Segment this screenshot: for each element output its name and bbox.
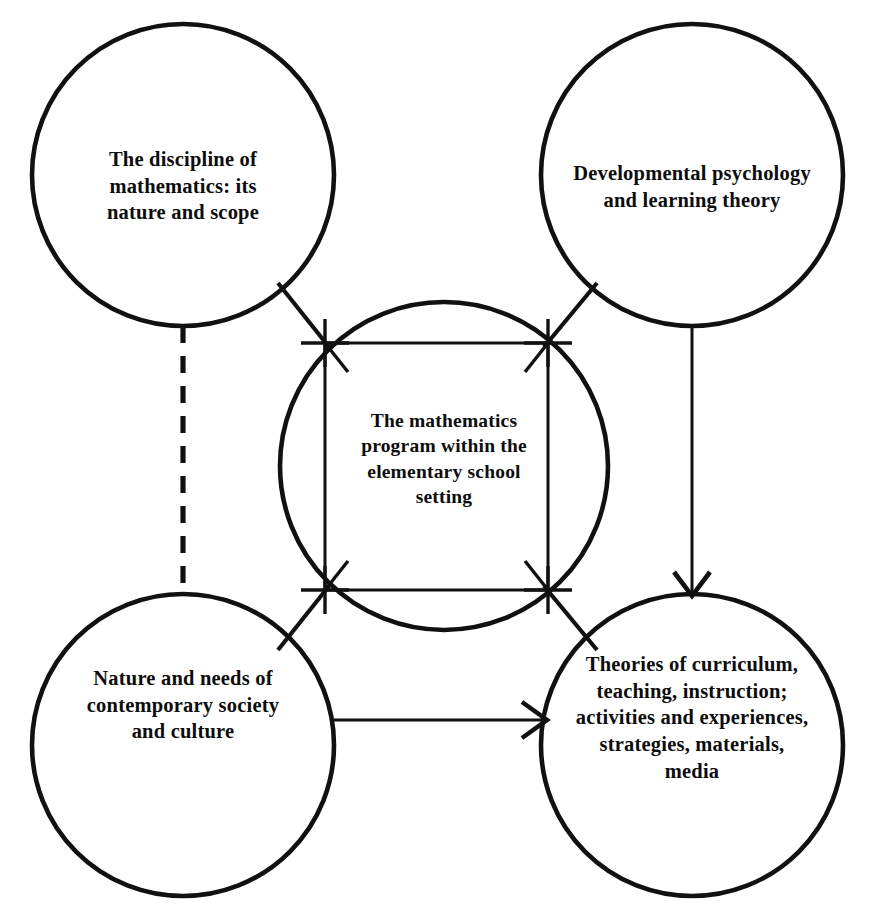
node-square-mathematics-program[interactable] (325, 343, 548, 590)
arrow-barb-top-right-diagonal (525, 343, 548, 372)
arrow-barb-bottom-right-diagonal (525, 561, 548, 590)
arrow-barb-top-left-diagonal (325, 343, 348, 372)
arrow-barb-bottom-left-diagonal (325, 561, 348, 590)
connector-society-to-center-line[interactable] (278, 586, 329, 650)
diagram-canvas (0, 0, 877, 905)
connector-psychology-to-center-line[interactable] (544, 283, 597, 347)
connector-discipline-to-center-line[interactable] (278, 283, 329, 347)
node-circle-discipline-of-mathematics[interactable] (32, 24, 334, 326)
node-circle-developmental-psychology[interactable] (541, 24, 843, 326)
diagram-root: The discipline of mathematics: its natur… (0, 0, 877, 905)
node-circle-mathematics-program[interactable] (280, 302, 608, 630)
connector-curriculum-to-center-line[interactable] (544, 586, 597, 650)
